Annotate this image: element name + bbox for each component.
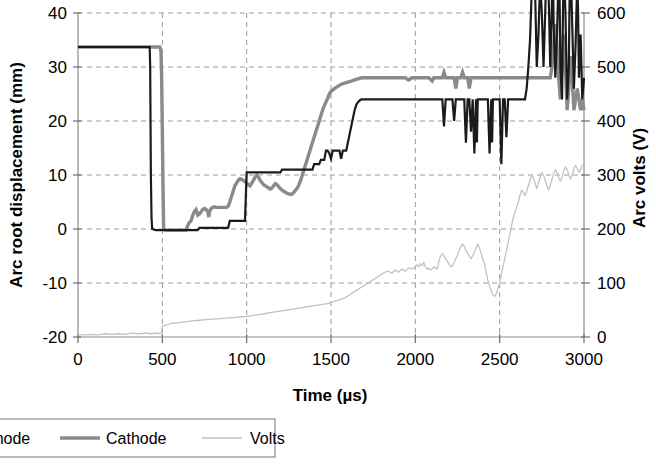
- y-tick-label: -10: [42, 274, 67, 293]
- chart-figure: 050010001500200025003000 -20-10010203040…: [0, 0, 656, 466]
- y2-tick-label: 100: [597, 274, 625, 293]
- y-tick-label: 0: [58, 220, 67, 239]
- y-tick-labels: -20-10010203040: [42, 4, 67, 347]
- y2-tick-label: 0: [597, 328, 606, 347]
- x-tick-label: 1500: [312, 350, 350, 369]
- y2-tick-label: 600: [597, 4, 625, 23]
- x-tick-label: 500: [148, 350, 176, 369]
- y2-axis-title: Arc volts (V): [630, 128, 649, 228]
- y2-tick-label: 400: [597, 112, 625, 131]
- x-tick-labels: 050010001500200025003000: [73, 350, 603, 369]
- legend-label-cathode: Cathode: [106, 430, 167, 447]
- y2-tick-label: 300: [597, 166, 625, 185]
- legend-label-anode: Anode: [0, 430, 30, 447]
- x-tick-label: 3000: [565, 350, 603, 369]
- y-tick-label: 20: [48, 112, 67, 131]
- x-tick-label: 1000: [228, 350, 266, 369]
- x-axis-title: Time (µs): [293, 386, 368, 405]
- y2-tick-label: 500: [597, 58, 625, 77]
- legend: AnodeCathodeVolts: [0, 419, 285, 457]
- y-tick-label: -20: [42, 328, 67, 347]
- y-tick-label: 10: [48, 166, 67, 185]
- x-tick-label: 0: [73, 350, 82, 369]
- y2-tick-labels: 0100200300400500600: [597, 4, 625, 347]
- y2-tick-label: 200: [597, 220, 625, 239]
- y-tick-label: 30: [48, 58, 67, 77]
- legend-label-volts: Volts: [250, 430, 285, 447]
- x-tick-label: 2000: [396, 350, 434, 369]
- x-tick-label: 2500: [481, 350, 519, 369]
- y-axis-title: Arc root displacement (mm): [7, 62, 26, 288]
- y-tick-label: 40: [48, 4, 67, 23]
- arc-root-displacement-chart: 050010001500200025003000 -20-10010203040…: [0, 0, 656, 466]
